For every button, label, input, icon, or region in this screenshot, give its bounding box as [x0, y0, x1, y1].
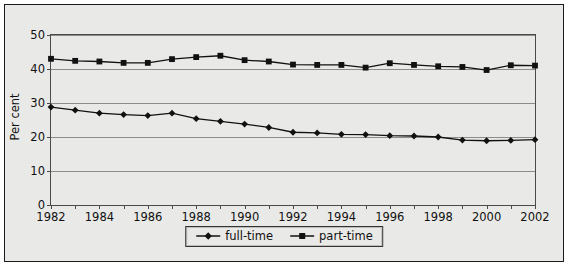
x-tick-label: 1986: [133, 210, 162, 224]
data-point-full-time: [193, 115, 200, 122]
chart-legend: full-time part-time: [185, 226, 383, 247]
x-tick-label: 1990: [230, 210, 259, 224]
data-point-full-time: [314, 130, 321, 137]
data-point-full-time: [169, 110, 176, 117]
x-tick-label: 1998: [424, 210, 453, 224]
x-tick-mark: [511, 205, 512, 209]
data-point-part-time: [532, 63, 538, 69]
data-point-full-time: [483, 137, 490, 144]
data-point-part-time: [218, 53, 224, 59]
y-axis-label: Per cent: [8, 93, 22, 140]
x-tick-label: 2000: [472, 210, 501, 224]
x-tick-mark: [220, 205, 221, 209]
data-point-full-time: [120, 111, 127, 118]
plot-area: 01020304050 1982198419861988199019921994…: [50, 34, 536, 206]
data-point-part-time: [508, 62, 514, 68]
data-point-part-time: [411, 62, 417, 68]
data-point-full-time: [48, 104, 55, 111]
x-tick-mark: [317, 205, 318, 209]
y-tick-label: 40: [30, 62, 45, 76]
data-point-full-time: [241, 121, 248, 128]
data-point-part-time: [193, 54, 199, 60]
legend-item-part-time[interactable]: part-time: [289, 229, 373, 243]
data-point-part-time: [97, 59, 103, 65]
y-tick-label: 30: [30, 96, 45, 110]
x-tick-mark: [462, 205, 463, 209]
legend-item-full-time[interactable]: full-time: [195, 229, 273, 243]
x-tick-label: 1994: [327, 210, 356, 224]
data-point-full-time: [338, 131, 345, 138]
x-tick-mark: [293, 205, 294, 209]
data-point-part-time: [387, 60, 393, 66]
data-point-part-time: [169, 56, 175, 62]
y-tick-label: 50: [30, 28, 45, 42]
data-point-part-time: [314, 62, 320, 68]
x-tick-mark: [535, 205, 536, 209]
square-marker-icon: [289, 231, 315, 241]
x-tick-mark: [124, 205, 125, 209]
data-point-part-time: [72, 58, 78, 64]
x-tick-label: 2002: [520, 210, 549, 224]
diamond-marker-icon: [195, 231, 221, 241]
data-point-part-time: [460, 64, 466, 70]
x-tick-label: 1982: [36, 210, 65, 224]
x-tick-mark: [341, 205, 342, 209]
data-point-full-time: [290, 129, 297, 136]
data-point-full-time: [507, 137, 514, 144]
data-point-part-time: [121, 60, 127, 66]
x-tick-mark: [148, 205, 149, 209]
x-tick-mark: [487, 205, 488, 209]
data-point-full-time: [96, 110, 103, 117]
x-tick-mark: [269, 205, 270, 209]
x-tick-mark: [51, 205, 52, 209]
x-tick-label: 1996: [375, 210, 404, 224]
chart-figure: Per cent 01020304050 1982198419861988199…: [4, 4, 564, 262]
data-point-full-time: [217, 118, 224, 125]
x-tick-mark: [75, 205, 76, 209]
data-point-part-time: [339, 62, 345, 68]
data-point-part-time: [435, 63, 441, 69]
y-tick-label: 20: [30, 130, 45, 144]
data-point-full-time: [532, 136, 539, 143]
data-point-part-time: [363, 65, 369, 71]
data-point-full-time: [459, 137, 466, 144]
x-tick-mark: [172, 205, 173, 209]
legend-label-part-time: part-time: [319, 229, 373, 243]
x-tick-label: 1984: [85, 210, 114, 224]
data-point-part-time: [48, 56, 54, 62]
series-layer: [51, 35, 535, 205]
data-point-full-time: [386, 132, 393, 139]
x-tick-mark: [414, 205, 415, 209]
data-point-full-time: [435, 134, 442, 141]
data-point-full-time: [265, 124, 272, 131]
x-tick-mark: [99, 205, 100, 209]
data-point-part-time: [266, 59, 272, 65]
x-tick-mark: [196, 205, 197, 209]
data-point-full-time: [411, 133, 418, 140]
data-point-part-time: [145, 60, 151, 66]
x-tick-label: 1992: [278, 210, 307, 224]
y-tick-label: 10: [30, 164, 45, 178]
data-point-full-time: [144, 112, 151, 119]
x-tick-label: 1988: [182, 210, 211, 224]
data-point-part-time: [290, 62, 296, 68]
data-point-part-time: [242, 57, 248, 63]
x-tick-mark: [438, 205, 439, 209]
data-point-full-time: [72, 107, 79, 114]
x-tick-mark: [390, 205, 391, 209]
data-point-part-time: [484, 67, 490, 73]
x-tick-mark: [245, 205, 246, 209]
legend-label-full-time: full-time: [225, 229, 273, 243]
x-tick-mark: [366, 205, 367, 209]
data-point-full-time: [362, 131, 369, 138]
